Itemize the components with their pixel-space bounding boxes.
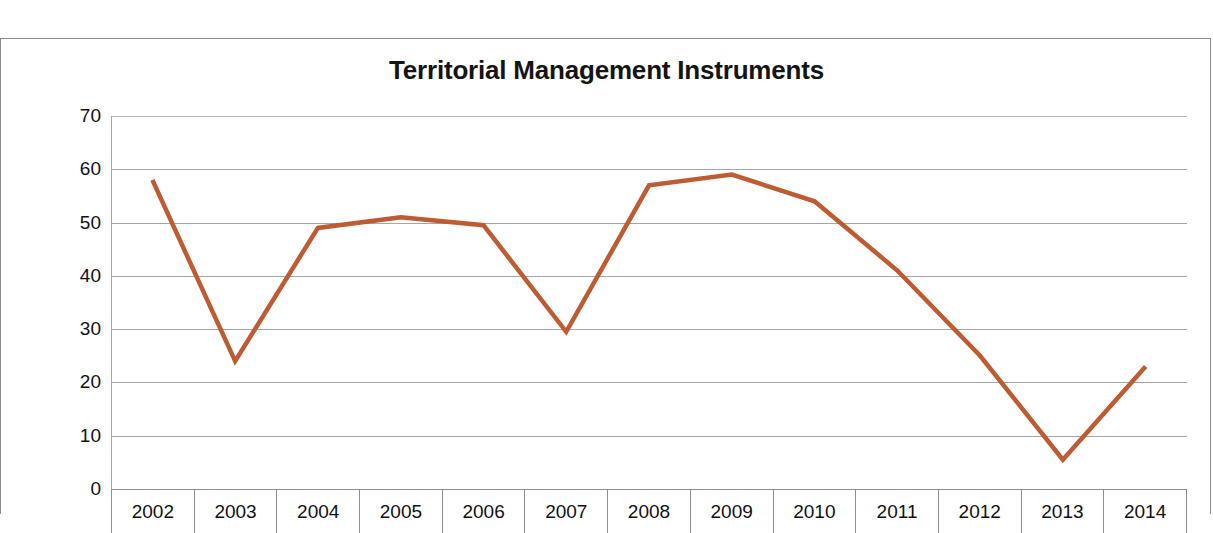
x-category-2002: 2002	[112, 490, 195, 533]
x-category-2007: 2007	[525, 490, 608, 533]
y-tick-label: 0	[43, 478, 101, 500]
x-category-2003: 2003	[195, 490, 278, 533]
y-tick-label: 40	[43, 265, 101, 287]
x-category-2005: 2005	[360, 490, 443, 533]
x-category-2014: 2014	[1104, 490, 1187, 533]
x-category-2006: 2006	[443, 490, 526, 533]
x-category-2012: 2012	[939, 490, 1022, 533]
plot-area	[111, 116, 1187, 489]
x-category-2011: 2011	[856, 490, 939, 533]
x-category-2004: 2004	[277, 490, 360, 533]
line-series	[111, 116, 1187, 489]
x-axis-category-labels: 2002200320042005200620072008200920102011…	[111, 489, 1187, 533]
y-tick-label: 60	[43, 158, 101, 180]
x-category-2013: 2013	[1022, 490, 1105, 533]
y-axis-tick-labels: 706050403020100	[31, 116, 101, 489]
y-tick-label: 30	[43, 318, 101, 340]
x-category-2009: 2009	[691, 490, 774, 533]
y-tick-label: 20	[43, 371, 101, 393]
x-category-2010: 2010	[774, 490, 857, 533]
chart-container: Territorial Management Instruments 70605…	[0, 38, 1211, 514]
y-tick-label: 70	[43, 105, 101, 127]
chart-title: Territorial Management Instruments	[1, 55, 1212, 86]
series-polyline	[152, 175, 1145, 460]
x-category-2008: 2008	[608, 490, 691, 533]
scan-artifact-strip	[0, 0, 1213, 14]
y-tick-label: 10	[43, 425, 101, 447]
y-tick-label: 50	[43, 212, 101, 234]
